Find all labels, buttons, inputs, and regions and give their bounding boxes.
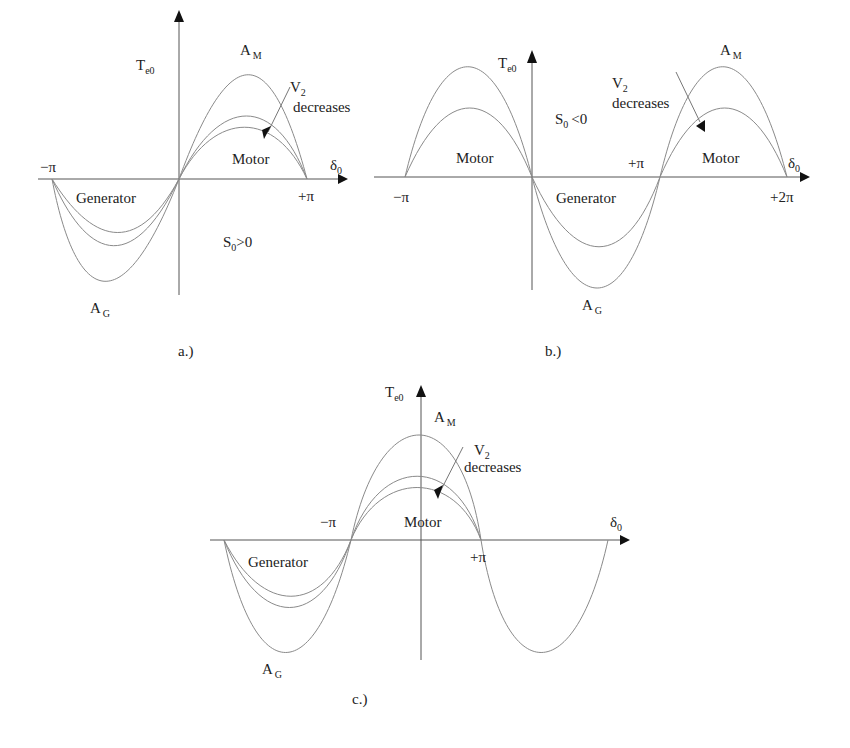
trough-label: AG	[262, 661, 282, 680]
peak-label: AM	[720, 42, 742, 61]
trough-label: AG	[90, 300, 110, 319]
region-motor-label: Motor	[404, 514, 442, 530]
panel-c-caption: c.)	[352, 691, 367, 708]
torque-curve-small	[224, 488, 481, 597]
y-axis-label: Te0	[136, 57, 155, 76]
x-axis-arrow-icon	[800, 172, 810, 182]
y-axis-arrow-icon	[527, 50, 537, 63]
y-axis-label: Te0	[498, 55, 517, 74]
v2-decreases-label: decreases	[293, 99, 351, 115]
panel-a: Te0 AM V2 decreases Motor δ0 −π +π Gener…	[38, 10, 351, 360]
region-motor-right-label: Motor	[702, 150, 740, 166]
v2-decreases-label: decreases	[464, 459, 522, 475]
panel-c: Te0 AM V2 decreases Motor −π δ0 +π Gener…	[210, 384, 630, 708]
tick-2pi: +2π	[770, 189, 794, 205]
x-axis-label: δ0	[610, 514, 622, 533]
x-axis-label: δ0	[330, 157, 342, 176]
peak-label: AM	[240, 42, 262, 61]
region-motor-left-label: Motor	[456, 150, 494, 166]
y-axis-arrow-icon	[416, 385, 426, 397]
y-axis-arrow-icon	[174, 10, 184, 22]
y-axis-label: Te0	[385, 384, 404, 403]
region-generator-label: Generator	[76, 190, 136, 206]
v2-pointer	[268, 87, 290, 132]
x-axis-arrow-icon	[620, 535, 630, 545]
tick-neg-pi: −π	[320, 514, 336, 530]
torque-curve-medium	[224, 476, 481, 607]
panel-a-caption: a.)	[178, 343, 193, 360]
panel-b: Te0 AM V2 decreases S0<0 Motor Motor +π …	[374, 42, 810, 360]
torque-angle-diagram: Te0 AM V2 decreases Motor δ0 −π +π Gener…	[0, 0, 850, 748]
tick-neg-pi: −π	[40, 159, 56, 175]
v2-arrow-icon	[262, 126, 271, 139]
region-motor-label: Motor	[232, 151, 270, 167]
x-axis-label: δ0	[788, 155, 800, 174]
panel-b-caption: b.)	[545, 343, 561, 360]
tick-pos-pi: +π	[470, 549, 486, 565]
tick-pos-pi: +π	[298, 188, 314, 204]
torque-curve-large	[224, 435, 608, 653]
region-generator-label: Generator	[556, 190, 616, 206]
v2-label: V2	[290, 79, 306, 98]
tick-pos-pi: +π	[628, 155, 644, 171]
peak-label: AM	[434, 409, 456, 428]
slip-condition-label: S0>0	[223, 234, 252, 253]
v2-arrow-icon	[434, 485, 443, 499]
trough-label: AG	[582, 297, 602, 316]
v2-decreases-label: decreases	[612, 95, 670, 111]
slip-condition-label: S0<0	[555, 111, 587, 130]
tick-neg-pi: −π	[393, 189, 409, 205]
v2-label: V2	[612, 75, 628, 94]
v2-arrow-icon	[696, 120, 705, 132]
region-generator-label: Generator	[248, 554, 308, 570]
v2-pointer	[440, 447, 463, 492]
